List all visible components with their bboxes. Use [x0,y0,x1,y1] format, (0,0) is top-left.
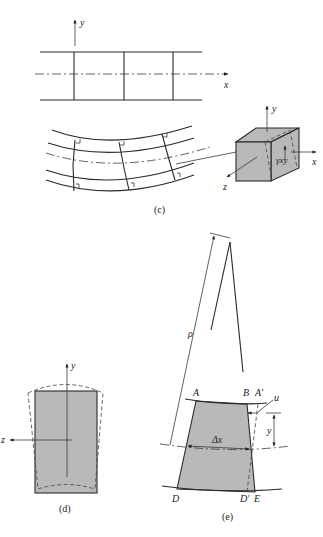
beam-bending-figure: y x y x z γxy (c) [0,0,323,537]
element-geometry: ρ Δx u y A B A′ D D′ E [160,233,290,504]
straight-beam: y x [35,17,229,100]
bent-section-1 [73,140,75,191]
right-angle-mark [76,139,80,143]
element-cube: y x z γxy [222,103,317,192]
cube-y-axis-label: y [271,103,277,114]
right-angle-mark [177,173,180,177]
radius-line-right [230,242,243,372]
bent-bottom-edge [46,175,194,191]
point-label-d-prime: D′ [239,493,250,504]
cube-z-axis-label: z [222,181,227,192]
cross-section-rect [35,391,97,493]
radius-line-left [211,242,230,330]
x-axis-label: x [223,79,229,90]
right-angle-mark [120,141,124,145]
bent-neutral-axis [46,147,210,163]
bent-top-edge [52,126,192,140]
bent-section-2 [119,142,129,190]
right-angle-mark [131,183,134,187]
caption-c: (c) [154,204,165,216]
point-label-d: D [171,493,180,504]
element-shaded-area [177,401,255,492]
point-label-e: E [253,493,260,504]
height-label: y [266,425,272,436]
point-label-a-prime: A′ [254,387,264,398]
bent-section-3 [162,134,175,180]
caption-d: (d) [59,503,71,515]
y-axis-label: y [79,17,85,28]
point-label-b: B [243,387,249,398]
bent-beam [46,126,236,191]
displacement-label: u [274,392,279,403]
radius-label: ρ [187,328,193,339]
section-y-axis-label: y [70,360,76,371]
length-label: Δx [211,434,223,445]
section-z-axis-label: z [0,434,5,445]
cube-x-axis-label: x [311,156,317,167]
radius-top-tick [210,233,230,238]
displacement-leader [258,400,273,412]
caption-e: (e) [222,511,233,523]
point-label-a: A [192,387,200,398]
shear-strain-label: γxy [276,155,288,165]
bent-lower-fiber [46,163,194,180]
cube-front-face [236,142,271,181]
cross-section: y z [0,360,103,493]
figure-canvas: y x y x z γxy (c) [0,0,323,537]
right-angle-mark [76,184,79,188]
